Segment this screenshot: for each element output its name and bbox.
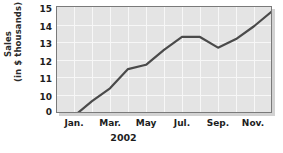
y-axis-title: Sales (in $ thousands) <box>4 6 28 82</box>
x-axis-title-text: 2002 <box>110 132 136 143</box>
x-tick-label: May <box>136 118 157 128</box>
y-tick-label: 10 <box>32 93 52 102</box>
y-tick-label: 14 <box>32 23 52 32</box>
y-tick-label: 13 <box>32 40 52 49</box>
y-tick-label: 11 <box>32 75 52 84</box>
sales-series-line <box>57 7 272 113</box>
y-tick-label: 12 <box>32 58 52 67</box>
x-tick-label: Nov. <box>242 118 264 128</box>
x-axis-title: 2002 <box>0 132 283 143</box>
y-tick-label: 15 <box>32 5 52 14</box>
y-tick-label: 0 <box>32 108 52 117</box>
x-tick-label: Jan. <box>64 118 83 128</box>
x-tick-label: Jul. <box>174 118 190 128</box>
sales-line-chart: Sales (in $ thousands) 15 14 13 12 11 10… <box>0 0 283 153</box>
y-axis-title-line-2: (in $ thousands) <box>14 6 24 82</box>
x-axis-tick-labels: Jan. Mar. May Jul. Sep. Nov. <box>0 118 283 132</box>
plot-area <box>56 6 272 113</box>
x-tick-label: Sep. <box>207 118 229 128</box>
x-tick-label: Mar. <box>99 118 121 128</box>
